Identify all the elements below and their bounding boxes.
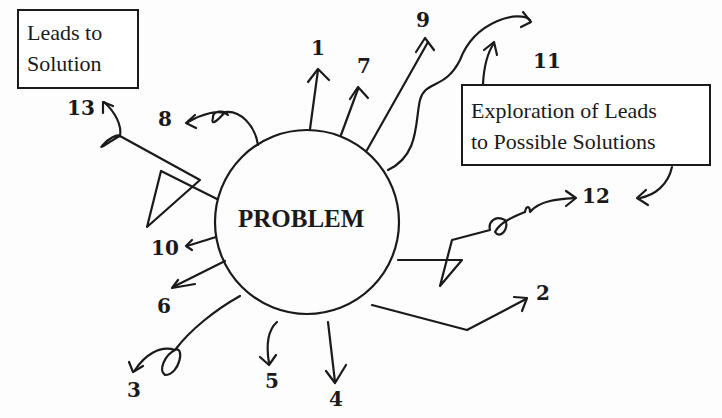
lead-number-10: 10 [151,238,179,258]
problem-label: PROBLEM [238,205,364,233]
lead-number-5: 5 [265,371,279,391]
box-line-2: Solution [27,48,129,79]
lead-number-13: 13 [67,98,95,118]
box-line-1: Leads to [27,17,129,48]
lead-number-7: 7 [357,56,371,76]
box-line-1: Exploration of Leads [471,95,701,126]
lead-number-11: 11 [533,51,561,71]
lead-number-9: 9 [416,10,430,30]
lead-number-4: 4 [329,389,343,409]
exploration-box: Exploration of Leads to Possible Solutio… [461,84,711,166]
box-arrow-12 [637,167,672,205]
lead-number-1: 1 [311,38,325,58]
lead-number-6: 6 [157,296,171,316]
lead-number-12: 12 [582,186,610,206]
lead-arrow-7 [341,87,368,135]
lead-arrow-1 [308,69,329,129]
lead-number-2: 2 [536,283,550,303]
lead-arrow-2 [372,297,527,330]
lead-arrow-8 [186,112,258,145]
lead-arrow-6 [172,261,225,288]
lead-arrow-12 [398,191,576,286]
lead-arrow-5 [260,322,277,365]
box-line-2: to Possible Solutions [471,126,701,157]
lead-number-8: 8 [158,109,172,129]
leads-to-solution-box: Leads to Solution [17,9,139,89]
lead-arrow-4 [326,322,346,383]
lead-arrow-10 [186,237,216,250]
lead-arrow-3 [129,296,240,375]
lead-arrow-9 [367,38,434,150]
lead-number-3: 3 [127,380,141,400]
problem-exploration-diagram: PROBLEM Leads to Solution Exploration of… [0,0,722,418]
